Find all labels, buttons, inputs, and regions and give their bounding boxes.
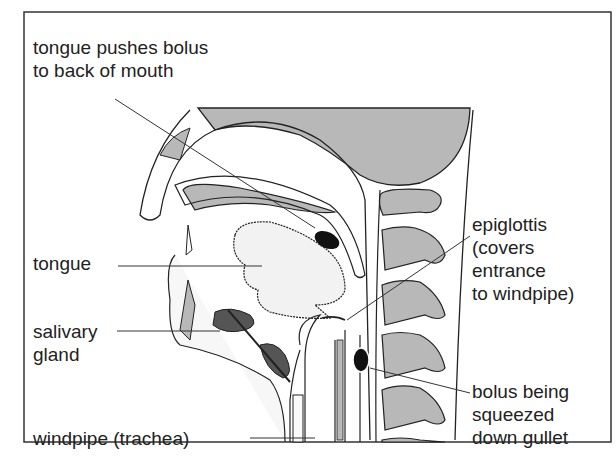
label-line-2: squeezed — [472, 403, 569, 426]
gullet-cartilage — [337, 340, 343, 440]
label-line-1: epiglottis — [472, 213, 574, 236]
label-line-2: (covers — [472, 236, 574, 259]
vertebrae — [376, 189, 445, 442]
salivary-gland-shape — [213, 309, 254, 332]
label-line-2: to back of mouth — [33, 59, 208, 82]
salivary-gland-lower — [260, 344, 290, 378]
label-bolus-gullet: bolus being squeezed down gullet — [472, 380, 569, 449]
vertebra-6 — [382, 438, 445, 442]
upper-teeth — [186, 225, 192, 255]
vertebra-3 — [382, 281, 445, 325]
vertebra-1 — [379, 189, 441, 215]
label-tongue-pushes-bolus: tongue pushes bolus to back of mouth — [33, 36, 208, 82]
label-tongue-text: tongue — [33, 252, 91, 275]
spinal-line — [376, 190, 380, 442]
vertebra-2 — [382, 227, 445, 270]
label-line-4: to windpipe) — [472, 282, 574, 305]
cranial-cavity — [198, 108, 470, 185]
label-line-2: gland — [33, 343, 97, 366]
trachea-rings — [293, 395, 303, 442]
label-line-1: bolus being — [472, 380, 569, 403]
label-windpipe: windpipe (trachea) — [33, 427, 189, 450]
vertebra-4 — [382, 333, 445, 379]
label-line-1: tongue pushes bolus — [33, 36, 208, 59]
vertebra-5 — [382, 386, 445, 430]
label-windpipe-text: windpipe (trachea) — [33, 427, 189, 450]
label-line-3: down gullet — [472, 426, 569, 449]
label-epiglottis: epiglottis (covers entrance to windpipe) — [472, 213, 574, 305]
salivary-duct — [228, 310, 290, 382]
label-tongue: tongue — [33, 252, 91, 275]
label-line-3: entrance — [472, 259, 574, 282]
label-salivary-gland: salivary gland — [33, 320, 97, 366]
epiglottis-shape — [322, 317, 345, 320]
label-line-1: salivary — [33, 320, 97, 343]
back-of-neck-outline — [455, 110, 473, 440]
bolus-in-gullet — [353, 348, 369, 372]
